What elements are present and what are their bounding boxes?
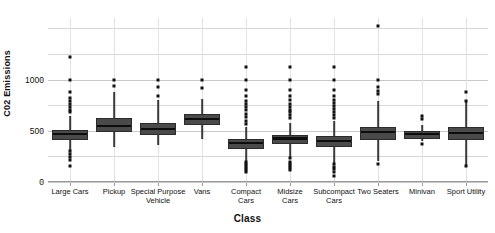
outlier-point [377, 162, 380, 165]
outlier-point [333, 88, 336, 91]
y-tick-label: 1000 [4, 75, 44, 85]
outlier-point [157, 94, 160, 97]
outlier-point [245, 88, 248, 91]
outlier-point [113, 78, 116, 81]
box-iqr [360, 127, 396, 140]
outlier-point [377, 25, 380, 28]
outlier-point [465, 100, 468, 103]
outlier-point [69, 78, 72, 81]
median-line [273, 137, 307, 139]
outlier-point [333, 174, 336, 177]
outlier-point [245, 94, 248, 97]
median-line [361, 131, 395, 133]
outlier-point [69, 90, 72, 93]
outlier-point [245, 78, 248, 81]
x-axis-title: Class [0, 213, 495, 224]
outlier-point [113, 84, 116, 87]
outlier-point [377, 78, 380, 81]
outlier-point [289, 117, 292, 120]
outlier-point [245, 109, 248, 112]
outlier-point [69, 159, 72, 162]
box-plot-10 [444, 18, 488, 182]
outlier-point [465, 164, 468, 167]
outlier-point [245, 66, 248, 69]
outlier-point [69, 111, 72, 114]
box-plot-4 [180, 18, 224, 182]
median-line [141, 128, 175, 130]
x-tick-mark [378, 183, 379, 186]
outlier-point [157, 85, 160, 88]
outlier-point [289, 168, 292, 171]
y-tick-mark [40, 130, 44, 131]
outlier-point [289, 78, 292, 81]
outlier-point [289, 66, 292, 69]
box-plot-1 [48, 18, 92, 182]
plot-area [48, 18, 488, 182]
outlier-point [333, 170, 336, 173]
x-axis-line [48, 181, 488, 182]
outlier-point [289, 94, 292, 97]
outlier-point [421, 143, 424, 146]
y-tick-label: 0 [4, 177, 44, 187]
outlier-point [333, 94, 336, 97]
x-tick-mark [334, 183, 335, 186]
outlier-point [201, 86, 204, 89]
median-line [185, 118, 219, 120]
x-tick-mark [202, 183, 203, 186]
outlier-point [201, 78, 204, 81]
outlier-point [289, 99, 292, 102]
median-line [405, 133, 439, 135]
box-plot-8 [356, 18, 400, 182]
box-plot-5 [224, 18, 268, 182]
x-tick-mark [466, 183, 467, 186]
outlier-point [377, 92, 380, 95]
boxplot-chart: C02 Emissions 05001000 Large CarsPickupS… [0, 0, 495, 233]
box-plot-6 [268, 18, 312, 182]
median-line [449, 132, 483, 134]
median-line [229, 142, 263, 144]
x-tick-mark [114, 183, 115, 186]
x-tick-mark [158, 183, 159, 186]
y-axis-ticks: 05001000 [0, 18, 44, 182]
outlier-point [157, 78, 160, 81]
x-axis-ticks: Large CarsPickupSpecial Purpose VehicleV… [48, 183, 488, 211]
x-tick-mark [422, 183, 423, 186]
box-plot-3 [136, 18, 180, 182]
outlier-point [245, 122, 248, 125]
outlier-point [421, 118, 424, 121]
outlier-point [377, 85, 380, 88]
outlier-point [333, 117, 336, 120]
box-plot-2 [92, 18, 136, 182]
median-line [53, 133, 87, 135]
y-tick-mark [40, 182, 44, 183]
outlier-point [333, 78, 336, 81]
x-tick-mark [290, 183, 291, 186]
outlier-point [333, 66, 336, 69]
box-plot-9 [400, 18, 444, 182]
outlier-point [69, 164, 72, 167]
y-tick-label: 500 [4, 126, 44, 136]
median-line [97, 125, 131, 127]
y-tick-mark [40, 79, 44, 80]
x-tick-mark [246, 183, 247, 186]
outlier-point [289, 88, 292, 91]
box-plot-7 [312, 18, 356, 182]
outlier-point [69, 55, 72, 58]
x-tick-label-10: Sport Utility [435, 187, 495, 196]
median-line [317, 140, 351, 142]
outlier-point [245, 170, 248, 173]
outlier-point [465, 90, 468, 93]
x-tick-mark [70, 183, 71, 186]
